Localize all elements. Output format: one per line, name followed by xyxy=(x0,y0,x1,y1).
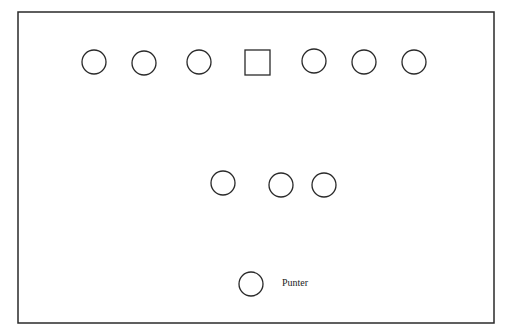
player-circle-icon xyxy=(302,49,326,73)
player-circle-icon xyxy=(132,51,156,75)
backfield xyxy=(211,171,336,197)
formation-diagram xyxy=(0,0,512,335)
center-square-icon xyxy=(245,50,270,75)
player-circle-icon xyxy=(352,50,376,74)
player-circle-icon xyxy=(312,173,336,197)
player-circle-icon xyxy=(187,50,211,74)
punter-label: Punter xyxy=(282,277,308,288)
player-circle-icon xyxy=(82,50,106,74)
offensive-line xyxy=(82,49,426,75)
field-border xyxy=(18,12,494,323)
player-circle-icon xyxy=(269,173,293,197)
player-circle-icon xyxy=(211,171,235,195)
punter-circle-icon xyxy=(239,272,263,296)
player-circle-icon xyxy=(402,50,426,74)
punter xyxy=(239,272,263,296)
